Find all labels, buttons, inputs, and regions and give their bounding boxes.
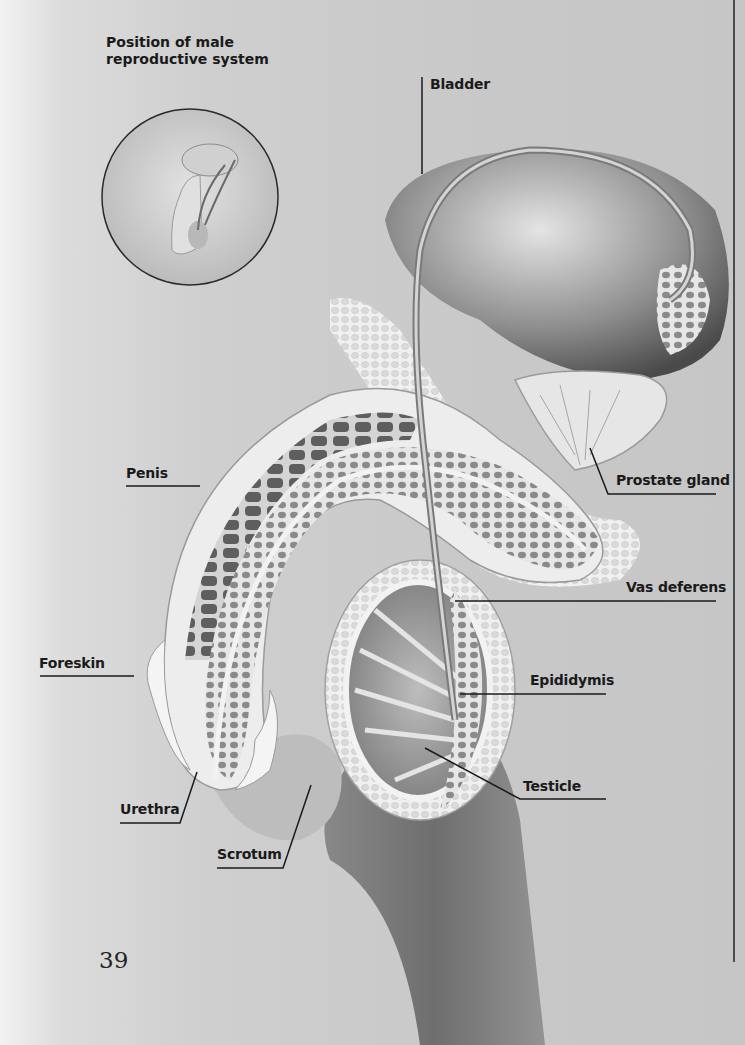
page-number: 39 (99, 947, 128, 973)
inset-title: Position of male reproductive system (106, 34, 269, 68)
label-prostate-gland: Prostate gland (616, 472, 730, 488)
label-foreskin: Foreskin (39, 655, 105, 671)
label-testicle: Testicle (523, 778, 581, 794)
inset-title-line1: Position of male (106, 34, 269, 51)
inset-title-line2: reproductive system (106, 51, 269, 68)
label-urethra: Urethra (120, 801, 179, 817)
prostate-organ (515, 371, 667, 470)
label-epididymis: Epididymis (530, 672, 614, 688)
anatomy-illustration (0, 0, 745, 1045)
label-vas-deferens: Vas deferens (626, 579, 726, 595)
label-penis: Penis (126, 465, 168, 481)
label-bladder: Bladder (430, 76, 490, 92)
diagram-page: Position of male reproductive system Bla… (0, 0, 745, 1045)
label-scrotum: Scrotum (217, 846, 282, 862)
